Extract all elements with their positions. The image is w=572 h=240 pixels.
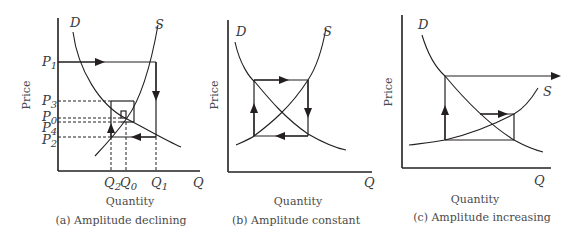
panel-b-caption: (b) Amplitude constant	[232, 214, 361, 227]
panel-a-y-label: Price	[20, 81, 33, 110]
panel-a-amplitude-declining: D S P1 P3 P0 P4 P2 Q2 Q0 Q1 Q Quantity P…	[20, 15, 204, 227]
panel-a-x-symbol: Q	[193, 175, 204, 190]
panel-c-x-symbol: Q	[534, 173, 545, 188]
panel-a-caption: (a) Amplitude declining	[55, 214, 186, 227]
q0-label: Q0	[120, 175, 138, 192]
panel-a-demand-label: D	[69, 15, 81, 30]
panel-b-supply-label: S	[323, 24, 332, 39]
panel-a-supply-label: S	[155, 17, 164, 32]
panel-c-caption: (c) Amplitude increasing	[413, 211, 551, 224]
panel-a-price-labels: P1 P3 P0 P4 P2	[41, 54, 58, 149]
panel-c-x-label: Quantity	[451, 193, 500, 206]
q1-label: Q1	[151, 175, 168, 192]
panel-a-quantity-labels: Q2 Q0 Q1	[104, 175, 168, 192]
panel-a-supply-curve	[95, 25, 158, 156]
panel-c-supply-label: S	[543, 84, 552, 99]
panel-c-demand-label: D	[417, 17, 429, 32]
panel-a-x-label: Quantity	[106, 195, 155, 208]
panel-b-demand-label: D	[235, 24, 247, 39]
panel-b-amplitude-constant: D S Q Quantity Price (b) Amplitude const…	[208, 20, 375, 227]
panel-c-amplitude-increasing: D S Q Quantity Price (c) Amplitude incre…	[382, 15, 556, 224]
p1-label: P1	[41, 54, 57, 71]
panel-c-supply-curve	[409, 88, 538, 145]
panel-b-x-label: Quantity	[274, 195, 323, 208]
panel-c-demand-curve	[422, 35, 543, 152]
panel-b-x-symbol: Q	[364, 175, 375, 190]
panel-c-y-label: Price	[382, 78, 395, 107]
p3-label: P3	[41, 93, 57, 110]
panel-b-supply-curve	[236, 28, 326, 145]
q2-label: Q2	[104, 175, 121, 192]
panel-b-y-label: Price	[208, 81, 221, 110]
panel-b-demand-curve	[235, 42, 346, 150]
panel-a-demand-curve	[73, 32, 181, 147]
cobweb-diagram: D S P1 P3 P0 P4 P2 Q2 Q0 Q1 Q Quantity P…	[0, 0, 572, 240]
